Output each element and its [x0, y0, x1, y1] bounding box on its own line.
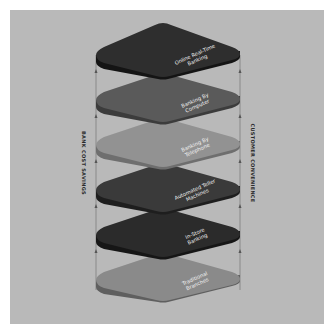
layer-traditional-branches: [96, 254, 240, 303]
axis-label-customer-convenience: CUSTOMER CONVENIENCE: [250, 123, 256, 202]
layer-automated-teller-machines: [96, 164, 240, 215]
layer-banking-by-telephone: [96, 119, 240, 170]
axis-label-bank-cost-savings: BANK COST SAVINGS: [81, 131, 87, 195]
layer-in-store-banking: [96, 209, 240, 260]
layer-banking-by-computer: [96, 74, 240, 125]
layer-online-real-time-banking: [96, 23, 240, 80]
layer-stack: [0, 0, 333, 333]
